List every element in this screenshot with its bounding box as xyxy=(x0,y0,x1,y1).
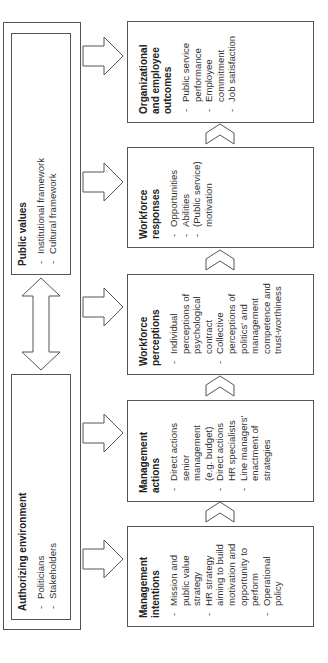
arrow-down-icon xyxy=(82,162,124,202)
list-item: Cultural framework xyxy=(47,42,59,266)
card-title: Workforce perceptions xyxy=(138,283,162,366)
list-item: Stakeholders xyxy=(47,383,59,611)
card-title: Organizational and employee outcomes xyxy=(138,30,174,114)
card-workforce-perceptions: Workforce perceptions Individual percept… xyxy=(127,274,314,375)
chevron-right-icon xyxy=(205,501,235,523)
public-values-box: Public values Institutional framework Cu… xyxy=(11,33,71,275)
double-arrow-icon xyxy=(18,276,64,372)
public-values-title: Public values xyxy=(17,42,29,266)
list-item: Politicians xyxy=(35,383,47,611)
list-item: Direct actions HR specialists xyxy=(214,409,237,493)
card-organizational-outcomes: Organizational and employee outcomes Pub… xyxy=(127,21,314,123)
list-item: Operational policy xyxy=(261,535,284,618)
chevron-right-icon xyxy=(205,123,235,145)
list-item: Opportunities xyxy=(168,156,180,239)
chevron-right-icon xyxy=(205,375,235,397)
authorizing-environment-box: Authorizing environment Politicians Stak… xyxy=(11,374,71,620)
list-item: (Public service) motivation xyxy=(191,156,214,239)
card-title: Workforce responses xyxy=(138,156,162,239)
list-item: Public service performance xyxy=(180,30,203,114)
authorizing-environment-title: Authorizing environment xyxy=(17,383,29,611)
list-item: HR strategy aiming to build motivation a… xyxy=(203,535,261,618)
card-workforce-responses: Workforce responses Opportunities Abilit… xyxy=(127,147,314,248)
arrow-down-icon xyxy=(82,287,124,327)
list-item: Collective perceptions of politics' and … xyxy=(214,283,284,366)
diagram-canvas: Authorizing environment Politicians Stak… xyxy=(0,0,328,663)
arrow-down-icon xyxy=(82,36,124,76)
list-item: Mission and public value strategy xyxy=(168,535,203,618)
card-management-intentions: Management intentions Mission and public… xyxy=(127,526,314,627)
list-item: Institutional framework xyxy=(35,42,47,266)
arrow-down-icon xyxy=(82,539,124,579)
card-title: Management actions xyxy=(138,409,162,493)
card-title: Management intentions xyxy=(138,535,162,618)
card-management-actions: Management actions Direct actions senior… xyxy=(127,400,314,502)
list-item: Abilities xyxy=(180,156,192,239)
list-item: Direct actions senior management (e.g. b… xyxy=(168,409,214,493)
list-item: Employee commitment xyxy=(203,30,226,114)
list-item: Job satisfaction xyxy=(226,30,238,114)
list-item: Line managers' enactment of strategies xyxy=(238,409,273,493)
list-item: Individual perceptions of psychological … xyxy=(168,283,214,366)
chevron-right-icon xyxy=(205,249,235,271)
arrow-down-icon xyxy=(82,413,124,453)
